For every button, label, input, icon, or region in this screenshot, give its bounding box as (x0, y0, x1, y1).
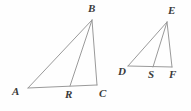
segment-ab (28, 20, 92, 88)
vertex-label-s: S (148, 69, 154, 80)
vertex-label-c: C (99, 88, 106, 99)
figure-canvas (0, 0, 191, 111)
segment-es (153, 22, 167, 67)
segment-bc (92, 20, 97, 85)
vertex-label-r: R (65, 89, 72, 100)
vertex-label-b: B (88, 3, 95, 14)
vertex-label-e: E (168, 5, 175, 16)
vertex-label-f: F (169, 69, 176, 80)
segment-df (128, 66, 172, 67)
vertex-label-d: D (118, 66, 126, 77)
segment-ac (28, 85, 97, 88)
vertex-label-a: A (12, 86, 19, 97)
segment-de (128, 22, 167, 66)
segment-br (70, 20, 92, 86)
segment-ef (167, 22, 172, 67)
geometry-figure: ABCRDEFS (0, 0, 191, 111)
